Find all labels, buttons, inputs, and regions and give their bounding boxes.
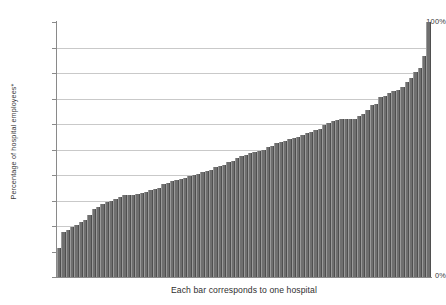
- x-axis-caption: Each bar corresponds to one hospital: [57, 285, 431, 295]
- x-axis-spine: [56, 277, 432, 278]
- plot-area: [57, 22, 431, 277]
- bar-series: [57, 22, 431, 277]
- bar-chart-figure: Percentage of hospital employees* 100% 0…: [0, 0, 446, 305]
- y-axis-label: Percentage of hospital employees*: [9, 83, 18, 199]
- y-axis-label-container: Percentage of hospital employees*: [0, 0, 26, 283]
- bar: [426, 22, 430, 277]
